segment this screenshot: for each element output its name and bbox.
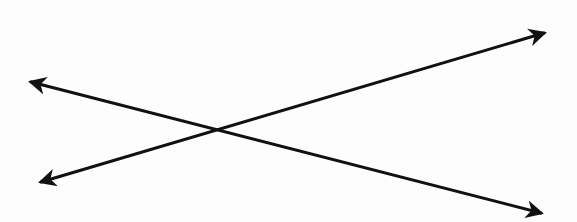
line-1 [31, 82, 541, 213]
diagram-canvas [0, 0, 577, 222]
lines-layer [31, 33, 544, 213]
intersecting-lines-diagram [0, 0, 577, 222]
line-2 [41, 33, 544, 182]
